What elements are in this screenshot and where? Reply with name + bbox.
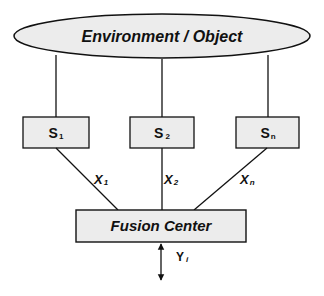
output-yi-label: Yi xyxy=(176,250,189,264)
signal-x1-label: X1 xyxy=(93,172,109,187)
fusion-center-label: Fusion Center xyxy=(111,217,213,234)
sn-to-fusion-connector xyxy=(194,148,267,210)
sensor-n-subscript: n xyxy=(271,132,276,141)
signal-x2-label: X2 xyxy=(163,172,179,187)
sensor-node-n: Sn xyxy=(236,117,299,148)
s1-to-fusion-connector xyxy=(56,148,118,210)
environment-node: Environment / Object xyxy=(14,14,310,58)
sensor-n-label: S xyxy=(260,125,269,141)
environment-label: Environment / Object xyxy=(82,28,244,45)
fusion-diagram: Environment / Object S1 S2 Sn X1 X2 Xn F… xyxy=(0,0,324,296)
signal-xn-label: Xn xyxy=(239,172,255,187)
fusion-center-node: Fusion Center xyxy=(76,210,246,242)
sensor-2-label: S xyxy=(154,125,163,141)
sensor-node-1: S1 xyxy=(23,117,89,148)
sensor-node-2: S2 xyxy=(130,117,194,148)
sensor-1-label: S xyxy=(49,125,58,141)
sensor-1-subscript: 1 xyxy=(59,132,64,141)
sensor-2-subscript: 2 xyxy=(165,132,170,141)
